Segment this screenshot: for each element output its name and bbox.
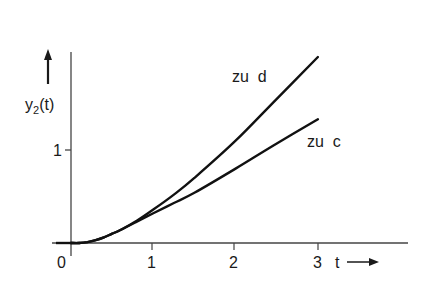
curve-label-zu-c: zu c [307,133,341,150]
x-axis-label: t [335,254,340,271]
x-tick-label-1: 1 [147,254,156,271]
curve-label-zu-d: zu d [232,68,267,85]
curve-zu-d [71,57,318,243]
y-tick-label-1: 1 [53,142,62,159]
x-tick-label-0: 0 [57,254,66,271]
x-axis-arrowhead-icon [369,258,379,266]
y-axis-arrowhead-icon [44,49,52,60]
curve-zu-c [71,119,318,243]
chart: 0 1 2 3 1 t y2(t) zu d zu c [0,0,433,282]
y-axis-label: y2(t) [25,96,54,116]
x-tick-label-2: 2 [229,254,238,271]
x-tick-label-3: 3 [313,254,322,271]
